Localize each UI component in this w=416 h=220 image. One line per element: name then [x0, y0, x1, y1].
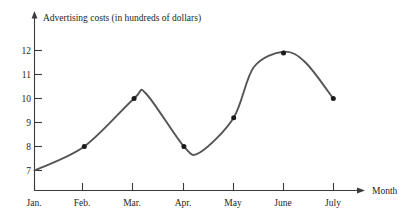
- data-point-may: [231, 115, 236, 120]
- y-tick-label-8: 8: [26, 142, 31, 152]
- x-axis-arrowhead: [357, 187, 365, 193]
- x-tick-label-apr: Apr.: [175, 198, 192, 208]
- x-tick-label-may: May: [224, 198, 242, 208]
- x-axis: [35, 187, 366, 193]
- x-tick-label-june: June: [274, 198, 291, 208]
- chart-title: Advertising costs (in hundreds of dollar…: [43, 13, 201, 24]
- y-axis-ticks: [35, 51, 43, 171]
- data-curve: [35, 52, 334, 171]
- data-point-apr: [181, 144, 186, 149]
- x-axis-ticks: [35, 183, 334, 191]
- data-point-july: [331, 96, 336, 101]
- x-tick-label-july: July: [325, 198, 341, 208]
- x-tick-label-mar: Mar.: [123, 198, 141, 208]
- y-tick-label-11: 11: [22, 70, 31, 80]
- x-tick-label-jan: Jan.: [26, 198, 41, 208]
- y-tick-label-12: 12: [22, 46, 32, 56]
- chart-canvas: 12 11 10 9 8 7 Jan. Feb. Mar. Apr. May J…: [0, 0, 416, 220]
- y-axis-arrowhead: [32, 11, 38, 19]
- y-axis: [32, 11, 38, 191]
- data-point-group: [82, 50, 336, 149]
- x-axis-name: Month: [372, 186, 398, 196]
- y-tick-label-7: 7: [26, 166, 31, 176]
- data-point-june: [281, 50, 286, 55]
- x-axis-tick-labels: Jan. Feb. Mar. Apr. May June July: [26, 198, 341, 208]
- data-point-feb: [82, 144, 87, 149]
- advertising-costs-line-chart: 12 11 10 9 8 7 Jan. Feb. Mar. Apr. May J…: [0, 0, 416, 220]
- x-tick-label-feb: Feb.: [74, 198, 91, 208]
- y-axis-tick-labels: 12 11 10 9 8 7: [22, 46, 32, 176]
- y-tick-label-9: 9: [26, 118, 31, 128]
- y-tick-label-10: 10: [22, 94, 32, 104]
- data-point-mar: [132, 96, 137, 101]
